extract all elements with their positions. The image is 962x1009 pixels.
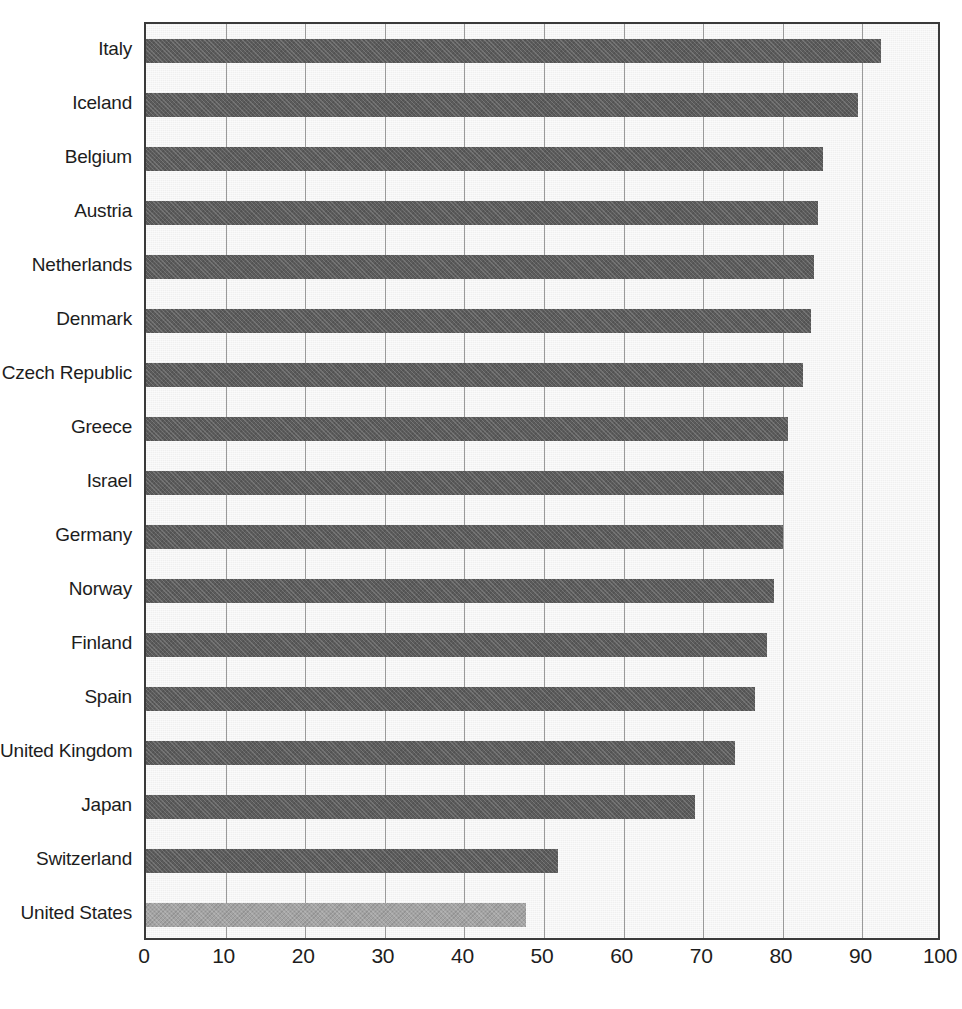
category-label-finland: Finland (0, 616, 132, 670)
category-label-netherlands: Netherlands (0, 238, 132, 292)
category-label-italy: Italy (0, 22, 132, 76)
x-tick-label-80: 80 (769, 944, 792, 968)
x-tick-label-10: 10 (212, 944, 235, 968)
x-axis-ticks: 0102030405060708090100 (144, 944, 940, 984)
x-tick-label-50: 50 (531, 944, 554, 968)
category-label-czech-republic: Czech Republic (0, 346, 132, 400)
category-label-iceland: Iceland (0, 76, 132, 130)
category-label-belgium: Belgium (0, 130, 132, 184)
category-label-greece: Greece (0, 400, 132, 454)
category-label-united-kingdom: United Kingdom (0, 724, 132, 778)
x-tick-label-100: 100 (923, 944, 957, 968)
category-label-japan: Japan (0, 778, 132, 832)
category-label-switzerland: Switzerland (0, 832, 132, 886)
bar-chart: ItalyIcelandBelgiumAustriaNetherlandsDen… (0, 0, 962, 1009)
x-tick-label-0: 0 (138, 944, 149, 968)
x-tick-label-90: 90 (849, 944, 872, 968)
x-tick-label-20: 20 (292, 944, 315, 968)
x-tick-label-30: 30 (371, 944, 394, 968)
x-tick-label-60: 60 (610, 944, 633, 968)
category-label-austria: Austria (0, 184, 132, 238)
category-label-denmark: Denmark (0, 292, 132, 346)
category-label-norway: Norway (0, 562, 132, 616)
category-label-united-states: United States (0, 886, 132, 940)
category-label-germany: Germany (0, 508, 132, 562)
category-label-israel: Israel (0, 454, 132, 508)
category-label-spain: Spain (0, 670, 132, 724)
x-tick-label-70: 70 (690, 944, 713, 968)
category-axis-labels: ItalyIcelandBelgiumAustriaNetherlandsDen… (0, 22, 962, 940)
x-tick-label-40: 40 (451, 944, 474, 968)
